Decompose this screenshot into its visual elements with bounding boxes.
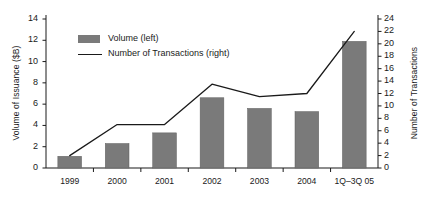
legend-line-transactions <box>78 54 102 55</box>
chart-container: Volume of Issuance ($B) Number of Transa… <box>0 0 424 207</box>
plot-area <box>0 0 424 207</box>
legend-label: Number of Transactions (right) <box>108 48 230 58</box>
bar <box>58 156 82 168</box>
bar <box>105 144 129 168</box>
bar <box>248 108 272 168</box>
bar <box>342 41 366 168</box>
legend-swatch-volume <box>78 35 100 43</box>
bar <box>295 112 319 168</box>
bar <box>200 98 224 168</box>
legend-label: Volume (left) <box>108 33 159 43</box>
bar <box>153 133 177 168</box>
